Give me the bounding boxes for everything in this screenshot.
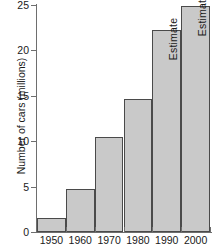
bar-1950 [37, 218, 66, 232]
y-tick-label: 10 [17, 136, 29, 147]
bar-1980 [124, 99, 153, 232]
y-tick-label: 15 [17, 91, 29, 102]
y-tick-20: 20 [0, 45, 36, 56]
y-tick-5: 5 [0, 182, 36, 193]
x-label-1950: 1950 [37, 234, 66, 246]
bar-chart: Number of cars (millions) 0510152025 Est… [0, 0, 218, 246]
y-tick-label: 0 [23, 227, 29, 238]
bar-annotation-2000: Estimate [196, 0, 208, 36]
bar-1970 [95, 137, 124, 232]
x-tick-mark [124, 227, 125, 233]
y-tick-label: 25 [17, 0, 29, 11]
y-tick-label: 20 [17, 45, 29, 56]
x-label-2000: 2000 [181, 234, 210, 246]
y-tick-0: 0 [0, 227, 36, 238]
y-tick-label: 5 [23, 182, 29, 193]
bar-1990: Estimate [152, 30, 181, 232]
x-axis-labels: 195019601970198019902000 [37, 234, 210, 246]
bar-1960 [66, 189, 95, 232]
y-axis-ticks: 0510152025 [0, 0, 36, 246]
plot-area: EstimateEstimate [37, 5, 210, 232]
x-tick-mark [210, 227, 211, 233]
x-tick-mark [181, 227, 182, 233]
x-tick-mark [152, 227, 153, 233]
x-label-1980: 1980 [124, 234, 153, 246]
x-label-1970: 1970 [95, 234, 124, 246]
x-tick-mark [66, 227, 67, 233]
y-tick-10: 10 [0, 136, 36, 147]
bar-annotation-1990: Estimate [167, 18, 179, 60]
x-label-1960: 1960 [66, 234, 95, 246]
x-tick-mark [95, 227, 96, 233]
y-tick-25: 25 [0, 0, 36, 11]
y-tick-15: 15 [0, 91, 36, 102]
bar-2000: Estimate [181, 6, 210, 232]
x-label-1990: 1990 [152, 234, 181, 246]
